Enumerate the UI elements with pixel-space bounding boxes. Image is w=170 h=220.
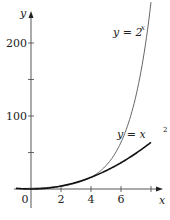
label-x-squared-base: y = x — [116, 128, 146, 141]
x-tick-label: 0 — [22, 193, 29, 206]
x-tick-label: 6 — [118, 193, 125, 206]
y-tick-label: 100 — [6, 110, 27, 123]
x-tick-label: 2 — [58, 193, 65, 206]
y-axis-label: y — [19, 7, 27, 20]
label-x-squared-exponent: 2 — [163, 126, 167, 134]
curve-x-squared — [16, 142, 151, 189]
y-ticks: 100200 — [6, 37, 34, 153]
chart: 0246 100200 x y y = 2 x y = x 2 — [0, 0, 170, 220]
y-axis-arrow-icon — [29, 11, 34, 18]
x-axis-label: x — [159, 194, 166, 207]
x-tick-label: 4 — [88, 193, 95, 206]
label-2-pow-x-exponent: x — [141, 24, 145, 32]
label-2-pow-x: y = 2 x — [112, 24, 145, 39]
x-axis-arrow-icon — [156, 187, 163, 192]
label-x-squared: y = x 2 — [116, 126, 167, 141]
y-tick-label: 200 — [6, 37, 27, 50]
label-2-pow-x-base: y = 2 — [112, 26, 142, 39]
